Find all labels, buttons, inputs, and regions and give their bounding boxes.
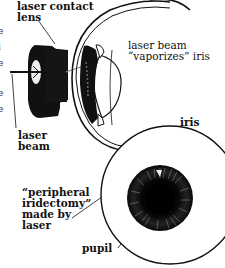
contact-lens-icon	[28, 45, 68, 118]
leader-laser-beam	[12, 74, 16, 128]
clipped-text-fragment: l	[0, 42, 1, 52]
clipped-text-fragment: e	[0, 88, 3, 98]
label-iris: iris	[180, 117, 199, 128]
clipped-text-fragment: e	[0, 104, 3, 114]
label-laser-beam: laser beam	[18, 130, 50, 152]
leader-contact-lens	[38, 20, 55, 44]
label-pupil: pupil	[82, 243, 112, 254]
label-laser-contact-lens: laser contact lens	[17, 1, 94, 23]
clipped-text-fragment: e	[0, 26, 3, 36]
label-laser-vaporizes-iris: laser beam “vaporizes” iris	[128, 40, 210, 62]
pupil-disc	[145, 184, 175, 214]
label-peripheral-iridectomy: “peripheral iridectomy” made by laser	[22, 187, 91, 231]
iridectomy-diagram: e l e e e laser contact lens laser beam …	[0, 0, 225, 268]
clipped-text-fragment: e	[0, 58, 3, 68]
